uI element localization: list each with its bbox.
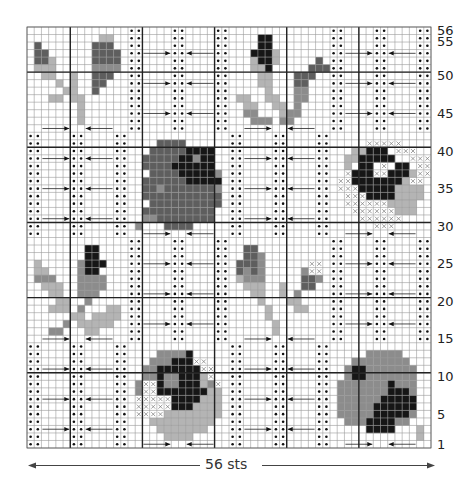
purl-dot-icon (318, 345, 321, 348)
stitch-cell (294, 72, 301, 80)
purl-dot-icon (426, 60, 429, 63)
purl-dot-icon (123, 413, 126, 416)
purl-dot-icon (419, 60, 422, 63)
purl-dot-icon (130, 263, 133, 266)
stitch-cell (215, 403, 222, 411)
stitch-cell (265, 87, 272, 95)
stitch-cell (366, 395, 373, 403)
purl-dot-icon (37, 428, 40, 431)
stitch-cell (388, 410, 395, 418)
stitch-cell (409, 185, 416, 193)
purl-dot-icon (116, 157, 119, 160)
purl-dot-icon (29, 435, 32, 438)
stitch-cell (388, 185, 395, 193)
purl-dot-icon (29, 428, 32, 431)
purl-dot-icon (37, 157, 40, 160)
purl-dot-icon (37, 390, 40, 393)
stitch-cell (179, 200, 186, 208)
purl-dot-icon (275, 353, 278, 356)
stitch-cell (280, 290, 287, 298)
stitch-cell (417, 192, 424, 200)
stitch-cell (344, 373, 351, 381)
arrowhead-left-icon (389, 442, 394, 446)
purl-dot-icon (376, 270, 379, 273)
purl-dot-icon (116, 368, 119, 371)
stitch-cell (373, 373, 380, 381)
arrowhead-left-icon (288, 217, 293, 221)
arrowhead-right-icon (64, 217, 69, 221)
purl-dot-icon (318, 210, 321, 213)
stitch-cell (352, 373, 359, 381)
purl-dot-icon (340, 270, 343, 273)
purl-dot-icon (376, 105, 379, 108)
stitch-cell (409, 192, 416, 200)
stitch-cell (395, 350, 402, 358)
purl-dot-icon (181, 29, 184, 32)
purl-dot-icon (426, 315, 429, 318)
arrowhead-right-icon (266, 186, 271, 190)
stitch-cell (294, 298, 301, 306)
stitch-cell (171, 410, 178, 418)
purl-dot-icon (325, 420, 328, 423)
stitch-cell (402, 418, 409, 426)
purl-dot-icon (318, 157, 321, 160)
stitch-cell (381, 380, 388, 388)
stitch-cell (352, 177, 359, 185)
purl-dot-icon (130, 52, 133, 55)
purl-dot-icon (239, 443, 242, 446)
stitch-cell (171, 162, 178, 170)
stitch-cell (243, 268, 250, 276)
purl-dot-icon (181, 263, 184, 266)
purl-dot-icon (282, 150, 285, 153)
stitch-cell (41, 72, 48, 80)
purl-dot-icon (325, 443, 328, 446)
purl-dot-icon (181, 97, 184, 100)
purl-dot-icon (73, 383, 76, 386)
stitch-cell (373, 350, 380, 358)
purl-dot-icon (318, 368, 321, 371)
stitch-cell (186, 170, 193, 178)
purl-dot-icon (130, 60, 133, 63)
purl-dot-icon (73, 180, 76, 183)
stitch-cell (78, 95, 85, 103)
stitch-cell (366, 155, 373, 163)
stitch-cell (193, 403, 200, 411)
stitch-cell (294, 95, 301, 103)
purl-dot-icon (80, 180, 83, 183)
stitch-cell (157, 177, 164, 185)
stitch-cell (157, 200, 164, 208)
purl-dot-icon (340, 293, 343, 296)
purl-dot-icon (217, 67, 220, 70)
purl-dot-icon (275, 345, 278, 348)
purl-dot-icon (217, 323, 220, 326)
stitch-cell (78, 268, 85, 276)
purl-dot-icon (340, 82, 343, 85)
purl-dot-icon (340, 247, 343, 250)
purl-dot-icon (376, 60, 379, 63)
purl-dot-icon (174, 285, 177, 288)
purl-dot-icon (217, 82, 220, 85)
purl-dot-icon (332, 285, 335, 288)
stitch-cell (106, 50, 113, 58)
stitch-cell (179, 215, 186, 223)
stitch-cell (99, 65, 106, 73)
purl-dot-icon (318, 180, 321, 183)
purl-dot-icon (340, 29, 343, 32)
arrowhead-right-icon (266, 367, 271, 371)
stitch-cell (294, 102, 301, 110)
stitch-cell (63, 298, 70, 306)
purl-dot-icon (217, 44, 220, 47)
purl-dot-icon (217, 127, 220, 130)
stitch-cell (200, 177, 207, 185)
stitch-cell (200, 147, 207, 155)
stitch-cell (157, 418, 164, 426)
stitch-cell (381, 185, 388, 193)
purl-dot-icon (123, 435, 126, 438)
stitch-cell (186, 365, 193, 373)
stitch-cell (56, 95, 63, 103)
purl-dot-icon (80, 413, 83, 416)
purl-dot-icon (340, 75, 343, 78)
purl-dot-icon (325, 195, 328, 198)
purl-dot-icon (29, 345, 32, 348)
stitch-cell (164, 358, 171, 366)
